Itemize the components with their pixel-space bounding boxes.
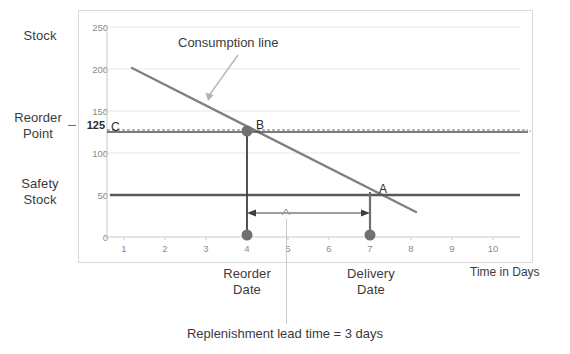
x-tick-7: 7 — [359, 243, 381, 254]
x-tick-2: 2 — [154, 243, 176, 254]
reorder-date-caption-line1: Reorder — [205, 266, 289, 282]
safety-stock-label-line2: Stock — [6, 192, 74, 208]
delivery-date-caption-line2: Date — [329, 282, 413, 298]
x-tick-5: 5 — [277, 243, 299, 254]
chart-canvas: Stock Reorder Point 125 Safety Stock Tim… — [0, 0, 570, 354]
x-tick-8: 8 — [400, 243, 422, 254]
safety-stock-label: Safety Stock — [6, 176, 74, 208]
point-label-c: C — [111, 120, 120, 134]
reorder-point-label-line1: Reorder — [2, 110, 74, 126]
x-tick-10: 10 — [482, 243, 504, 254]
x-tick-3: 3 — [195, 243, 217, 254]
x-tick-1: 1 — [113, 243, 135, 254]
reorder-point-label: Reorder Point — [2, 110, 74, 142]
reorder-date-caption: Reorder Date — [205, 266, 289, 298]
reorder-point-value: 125 — [79, 119, 105, 131]
consumption-line-annotation: Consumption line — [178, 35, 278, 50]
reorder-point-dash-marker — [68, 125, 76, 126]
y-tick-150: 150 — [82, 106, 108, 117]
y-tick-0: 0 — [82, 232, 108, 243]
safety-stock-label-line1: Safety — [6, 176, 74, 192]
point-label-a: A — [379, 182, 387, 196]
x-tick-9: 9 — [441, 243, 463, 254]
point-label-b: B — [256, 118, 264, 132]
x-tick-6: 6 — [318, 243, 340, 254]
x-tick-4: 4 — [236, 243, 258, 254]
chart-plot-frame — [78, 10, 533, 263]
y-axis-title-stock: Stock — [6, 28, 74, 44]
caption-leader-line — [286, 219, 287, 324]
y-tick-250: 250 — [82, 22, 108, 33]
reorder-date-caption-line2: Date — [205, 282, 289, 298]
delivery-date-caption-line1: Delivery — [329, 266, 413, 282]
x-axis-title: Time in Days — [470, 265, 540, 279]
y-tick-200: 200 — [82, 64, 108, 75]
y-tick-100: 100 — [82, 148, 108, 159]
reorder-point-label-line2: Point — [2, 126, 74, 142]
delivery-date-caption: Delivery Date — [329, 266, 413, 298]
lead-time-caption: Replenishment lead time = 3 days — [0, 326, 570, 341]
y-tick-50: 50 — [82, 190, 108, 201]
